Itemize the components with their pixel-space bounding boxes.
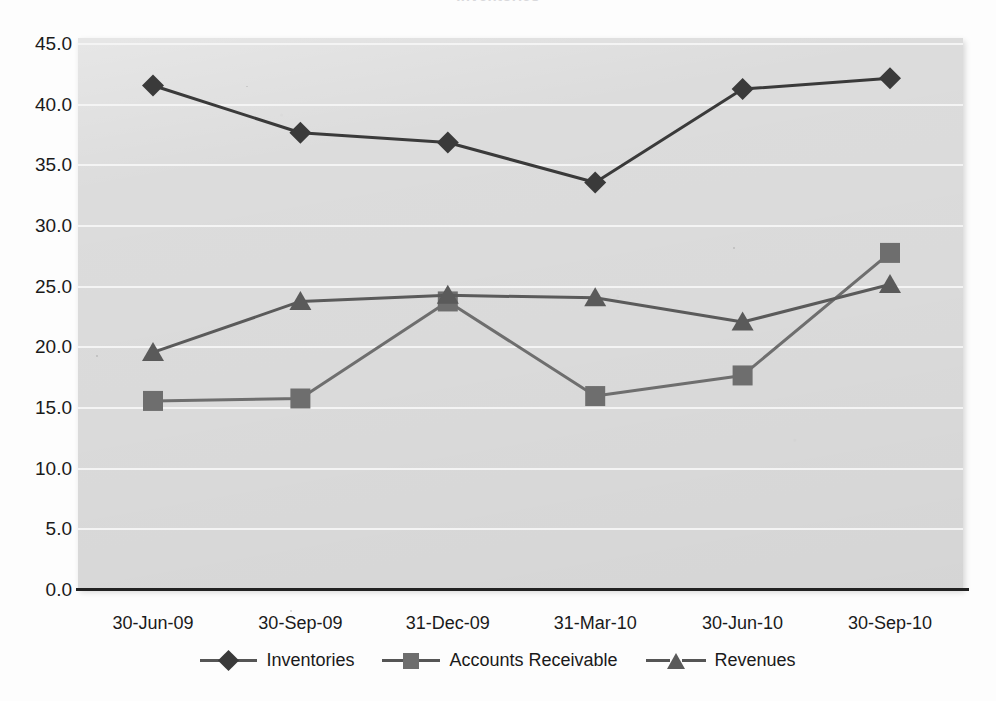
line-chart: Inventories 45.040.035.030.025.020.015.0… [0, 0, 996, 701]
legend-marker-triangle-icon [667, 653, 685, 669]
y-axis-tick-label: 45.0 [6, 34, 72, 53]
y-axis-tick-label: 30.0 [6, 216, 72, 235]
plot-area [78, 38, 963, 589]
x-axis-tick-label: 31-Dec-09 [368, 612, 528, 634]
legend-marker-square-icon [403, 653, 419, 669]
x-axis-tick-label: 30-Sep-10 [810, 612, 970, 634]
x-axis-tick-labels: 30-Jun-0930-Sep-0931-Dec-0931-Mar-1030-J… [0, 612, 996, 638]
y-axis-tick-labels: 45.040.035.030.025.020.015.010.05.00.0 [0, 0, 72, 701]
gridline [78, 346, 963, 348]
y-axis-tick-label: 35.0 [6, 155, 72, 174]
x-axis-tick-label: 30-Jun-10 [663, 612, 823, 634]
y-axis-tick-label: 10.0 [6, 459, 72, 478]
gridline [78, 164, 963, 166]
scan-speck [96, 355, 98, 357]
plot-area-shading [78, 38, 963, 589]
gridline [78, 225, 963, 227]
legend-line [416, 659, 440, 662]
gridline [78, 407, 963, 409]
legend-marker-diamond-icon [218, 650, 239, 671]
y-axis-tick-label: 20.0 [6, 337, 72, 356]
chart-legend: InventoriesAccounts ReceivableRevenues [0, 650, 996, 671]
x-axis-line [76, 588, 969, 591]
scan-speck [246, 86, 248, 87]
legend-label: Inventories [266, 650, 354, 671]
x-axis-tick-label: 30-Sep-09 [220, 612, 380, 634]
y-axis-tick-label: 25.0 [6, 277, 72, 296]
gridline [78, 43, 963, 45]
legend-item-revenues[interactable]: Revenues [646, 650, 796, 671]
y-axis-tick-label: 15.0 [6, 398, 72, 417]
legend-label: Accounts Receivable [449, 650, 617, 671]
y-axis-tick-label: 40.0 [6, 95, 72, 114]
legend-label: Revenues [715, 650, 796, 671]
x-axis-tick-label: 31-Mar-10 [515, 612, 675, 634]
scan-texture [78, 38, 963, 589]
scan-speck [290, 610, 292, 612]
gridline [78, 468, 963, 470]
gridline [78, 286, 963, 288]
y-axis-tick-label: 5.0 [6, 519, 72, 538]
chart-title: Inventories [0, 0, 996, 1]
x-axis-tick-label: 30-Jun-09 [73, 612, 233, 634]
gridline [78, 528, 963, 530]
scan-speck [733, 247, 735, 249]
legend-line [682, 659, 706, 662]
y-axis-tick-label: 0.0 [6, 580, 72, 599]
gridline [78, 104, 963, 106]
legend-item-accounts-receivable[interactable]: Accounts Receivable [382, 650, 617, 671]
legend-item-inventories[interactable]: Inventories [200, 650, 354, 671]
